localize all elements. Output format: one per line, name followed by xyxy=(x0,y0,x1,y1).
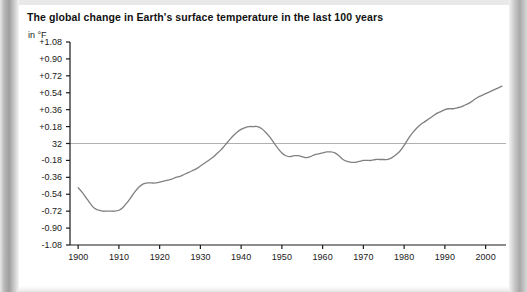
x-axis-tick-label: 1970 xyxy=(353,252,373,262)
x-axis-tick-label: 1920 xyxy=(150,252,170,262)
y-axis-tick-label: 32 xyxy=(19,139,62,149)
x-axis-tick-label: 1910 xyxy=(109,252,129,262)
x-axis-tick-label: 1930 xyxy=(190,252,210,262)
x-axis-tick-label: 1950 xyxy=(272,252,292,262)
y-axis-tick-label: +1.08 xyxy=(19,37,62,47)
page-edge-shadow-right xyxy=(509,0,527,292)
y-axis-tick-label: -1.08 xyxy=(19,240,62,250)
y-axis-tick-label: +0.54 xyxy=(19,88,62,98)
x-axis-tick-label: 1940 xyxy=(231,252,251,262)
chart-panel: The global change in Earth's surface tem… xyxy=(19,5,509,286)
y-axis-tick-label: -0.90 xyxy=(19,223,62,233)
y-axis-tick-label: -0.36 xyxy=(19,172,62,182)
y-axis-tick-label: +0.72 xyxy=(19,71,62,81)
y-axis-tick-label: -0.54 xyxy=(19,189,62,199)
y-axis-tick-label: -0.18 xyxy=(19,155,62,165)
x-axis-tick-label: 1960 xyxy=(313,252,333,262)
x-axis-tick-label: 1900 xyxy=(68,252,88,262)
page-edge-shadow-left xyxy=(0,0,19,292)
x-axis-tick-label: 2000 xyxy=(476,252,496,262)
line-chart-svg xyxy=(19,5,509,286)
x-axis-tick-label: 1980 xyxy=(394,252,414,262)
page-edge-shadow-bottom xyxy=(19,286,509,292)
y-axis-tick-label: +0.90 xyxy=(19,54,62,64)
plot-area: +1.08+0.90+0.72+0.54+0.36+0.1832-0.18-0.… xyxy=(19,5,509,286)
y-axis-tick-label: -0.72 xyxy=(19,206,62,216)
x-axis-tick-label: 1990 xyxy=(435,252,455,262)
y-axis-tick-label: +0.18 xyxy=(19,122,62,132)
y-axis-tick-label: +0.36 xyxy=(19,105,62,115)
temperature-anomaly-line xyxy=(78,86,502,211)
screenshot-root: The global change in Earth's surface tem… xyxy=(0,0,527,292)
